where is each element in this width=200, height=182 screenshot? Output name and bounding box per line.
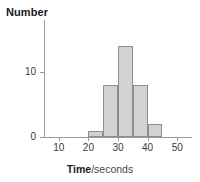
x-tick-label-20: 20 [76, 142, 100, 153]
y-axis-title: Number [6, 6, 48, 18]
bar-40-45 [148, 124, 163, 137]
x-tick-label-50: 50 [165, 142, 189, 153]
bar-25-30 [103, 85, 118, 137]
x-tick-50 [177, 137, 178, 141]
x-tick-30 [118, 137, 119, 141]
y-tick-label-0: 0 [14, 131, 36, 142]
bar-30-35 [118, 46, 133, 137]
x-tick-40 [148, 137, 149, 141]
y-tick-label-10: 10 [14, 66, 36, 77]
histogram-chart: Number 010 1020304050 Time/seconds [0, 0, 200, 182]
x-tick-label-40: 40 [136, 142, 160, 153]
x-tick-20 [88, 137, 89, 141]
x-tick-label-10: 10 [47, 142, 71, 153]
y-tick-10 [40, 72, 44, 73]
bar-20-25 [88, 131, 103, 138]
x-tick-label-30: 30 [106, 142, 130, 153]
x-axis-title: Time/seconds [0, 163, 200, 175]
bar-35-40 [133, 85, 148, 137]
y-axis-line [44, 20, 45, 138]
x-axis-title-bold: Time [67, 163, 91, 175]
x-axis-title-plain: /seconds [91, 163, 133, 175]
y-tick-0 [40, 137, 44, 138]
x-tick-10 [59, 137, 60, 141]
